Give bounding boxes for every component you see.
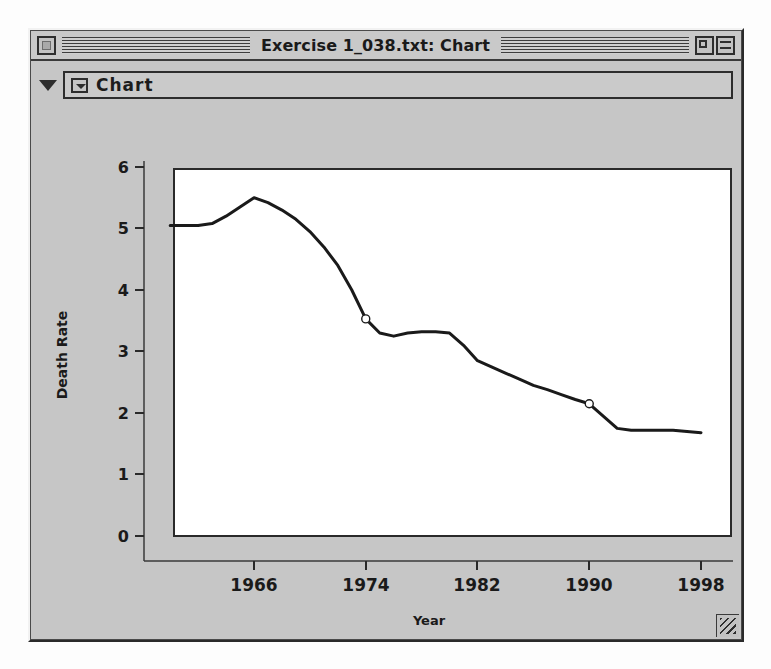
title-bar-stripes-left [62,37,250,54]
x-tick-label: 1974 [342,575,389,595]
window-title: Exercise 1_038.txt: Chart [255,36,496,55]
y-tick-label: 3 [118,342,129,361]
y-tick-label: 4 [118,281,129,300]
title-bar-stripes-right [501,37,689,54]
x-tick-label: 1998 [677,575,724,595]
y-axis-ticks: 0123456 [118,158,144,546]
window-inner-frame: Exercise 1_038.txt: Chart Chart [30,30,742,640]
x-tick-label: 1990 [565,575,612,595]
chart-window: Exercise 1_038.txt: Chart Chart [28,28,744,642]
line-chart: 0123456 19661974198219901998 Death Rate … [39,105,733,631]
y-tick-label: 5 [118,219,129,238]
chart-tab[interactable]: Chart [63,71,733,99]
y-axis-label: Death Rate [54,311,70,400]
y-tick-label: 1 [118,465,129,484]
x-tick-label: 1982 [453,575,500,595]
chart-canvas[interactable]: 0123456 19661974198219901998 Death Rate … [39,105,733,631]
x-axis-label: Year [412,613,446,628]
popup-menu-triangle-icon[interactable] [71,78,88,93]
y-tick-label: 6 [118,158,129,177]
disclosure-triangle-icon[interactable] [39,80,57,91]
data-point-marker[interactable] [362,315,370,323]
screenshot-root: Exercise 1_038.txt: Chart Chart [0,0,771,669]
close-box-icon[interactable] [37,36,56,55]
chart-header-bar: Chart [39,69,733,101]
x-tick-label: 1966 [230,575,277,595]
window-title-bar[interactable]: Exercise 1_038.txt: Chart [31,31,741,61]
zoom-box-icon[interactable] [695,36,714,55]
collapse-box-icon[interactable] [716,36,735,55]
y-tick-label: 2 [118,404,129,423]
plot-background [174,169,731,536]
x-axis-ticks: 19661974198219901998 [230,561,724,595]
data-point-marker[interactable] [585,400,593,408]
resize-grip-icon[interactable] [716,614,739,637]
y-tick-label: 0 [118,527,129,546]
chart-tab-label: Chart [96,75,154,95]
